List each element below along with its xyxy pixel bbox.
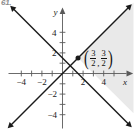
figure-container: 61. <box>0 0 137 133</box>
y-axis-label: y <box>53 7 58 17</box>
y-axis <box>60 8 66 129</box>
y-tick-label-minus4: −4 <box>47 110 57 120</box>
x-tick-label-minus2: −2 <box>37 77 47 87</box>
open-paren: ( <box>84 50 89 66</box>
y-tick-label-minus2: −2 <box>47 89 57 99</box>
intersection-point-marker <box>76 56 81 61</box>
y-tick-label-4: 4 <box>52 28 57 38</box>
fraction-y-numerator: 3 <box>101 49 105 58</box>
fraction-y-denominator: 2 <box>101 59 105 68</box>
fraction-y-coordinate: 3 2 <box>100 49 107 68</box>
x-tick-label-4: 4 <box>101 77 106 87</box>
close-paren: ) <box>108 50 113 66</box>
fraction-x-numerator: 3 <box>91 49 95 58</box>
intersection-coordinate-label: ( 3 2 , 3 2 ) <box>83 49 114 68</box>
x-axis-label: x <box>122 77 127 87</box>
fraction-x-denominator: 2 <box>91 59 95 68</box>
x-tick-label-minus4: −4 <box>17 77 27 87</box>
coordinate-plane-plot: −4 −2 2 4 4 2 −2 −4 x y <box>0 0 137 133</box>
fraction-x-coordinate: 3 2 <box>90 49 97 68</box>
